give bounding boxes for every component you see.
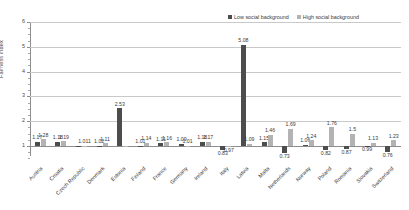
bar-high bbox=[144, 143, 149, 146]
bar-high bbox=[123, 146, 128, 147]
y-minor-tick bbox=[28, 158, 30, 159]
legend-swatch-low bbox=[228, 15, 232, 19]
bar-low bbox=[262, 142, 267, 146]
bar-value-label: 1.01 bbox=[183, 139, 193, 144]
bar-chart: Fairness index 123456 Low social backgro… bbox=[0, 0, 409, 210]
legend-item-high: High social background bbox=[297, 14, 359, 20]
plot-area: 1.171.281.181.191.0111.021.112.531.011.1… bbox=[30, 22, 401, 146]
bar-value-label: 1.23 bbox=[389, 134, 399, 139]
gridline bbox=[30, 72, 401, 73]
legend-swatch-high bbox=[297, 15, 301, 19]
bar-high bbox=[371, 143, 376, 146]
bar-high bbox=[309, 140, 314, 146]
y-tick-label: 3 bbox=[22, 94, 25, 99]
bar-value-label: 1.11 bbox=[100, 137, 110, 142]
bar-value-label: 1.24 bbox=[306, 134, 316, 139]
y-axis-title: Fairness index bbox=[0, 40, 4, 78]
bar-high bbox=[391, 140, 396, 146]
gridline bbox=[30, 121, 401, 122]
bar-high bbox=[288, 129, 293, 146]
y-tick-label: 5 bbox=[22, 44, 25, 49]
bar-high bbox=[206, 142, 211, 146]
bar-value-label: 1.13 bbox=[368, 136, 378, 141]
bar-value-label: 1.28 bbox=[38, 133, 48, 138]
y-minor-tick bbox=[28, 152, 30, 153]
bar-low bbox=[241, 45, 246, 146]
bar-value-label: 1.5 bbox=[349, 127, 356, 132]
bar-value-label: 1.09 bbox=[244, 137, 254, 142]
y-tick-label: 6 bbox=[22, 19, 25, 24]
bar-value-label: 0.87 bbox=[341, 150, 351, 155]
bar-low bbox=[158, 143, 163, 146]
bar-high bbox=[103, 143, 108, 146]
bar-low bbox=[76, 146, 81, 147]
bar-high bbox=[164, 142, 169, 146]
bar-value-label: 0.76 bbox=[383, 153, 393, 158]
bar-value-label: 1.17 bbox=[203, 135, 213, 140]
gridline bbox=[30, 22, 401, 23]
bar-high bbox=[61, 141, 66, 146]
bar-value-label: 1.69 bbox=[286, 122, 296, 127]
legend-label-high: High social background bbox=[303, 14, 359, 20]
bar-low bbox=[55, 142, 60, 146]
bar-value-label: 1.76 bbox=[327, 121, 337, 126]
chart-legend: Low social background High social backgr… bbox=[228, 14, 359, 20]
bar-value-label: 0.99 bbox=[362, 147, 372, 152]
bar-value-label: 5.08 bbox=[238, 38, 248, 43]
gridline bbox=[30, 47, 401, 48]
bar-high bbox=[329, 127, 334, 146]
bar-value-label: 1.46 bbox=[265, 128, 275, 133]
legend-label-low: Low social background bbox=[234, 14, 289, 20]
bar-value-label: 1.14 bbox=[141, 136, 151, 141]
bar-value-label: 1.19 bbox=[59, 135, 69, 140]
bar-high bbox=[268, 135, 273, 146]
bar-low bbox=[282, 146, 287, 153]
bar-value-label: 1.011 bbox=[78, 139, 91, 144]
bar-value-label: 1.16 bbox=[162, 136, 172, 141]
bar-value-label: 0.97 bbox=[224, 148, 234, 153]
y-tick-label: 4 bbox=[22, 69, 25, 74]
bar-high bbox=[247, 144, 252, 146]
bar-high bbox=[350, 134, 355, 146]
bar-low bbox=[117, 108, 122, 146]
gridline bbox=[30, 96, 401, 97]
y-tick-label: 1 bbox=[22, 143, 25, 148]
bar-value-label: 0.82 bbox=[321, 151, 331, 156]
legend-item-low: Low social background bbox=[228, 14, 289, 20]
bar-low bbox=[303, 145, 308, 146]
bar-value-label: 0.73 bbox=[280, 154, 290, 159]
bar-high bbox=[185, 146, 190, 147]
bar-high bbox=[82, 146, 87, 147]
bar-low bbox=[138, 146, 143, 147]
bar-low bbox=[97, 146, 102, 147]
y-tick-label: 2 bbox=[22, 118, 25, 123]
bar-low bbox=[35, 142, 40, 146]
bar-value-label: 2.53 bbox=[115, 102, 125, 107]
bar-low bbox=[200, 142, 205, 146]
bar-high bbox=[41, 139, 46, 146]
